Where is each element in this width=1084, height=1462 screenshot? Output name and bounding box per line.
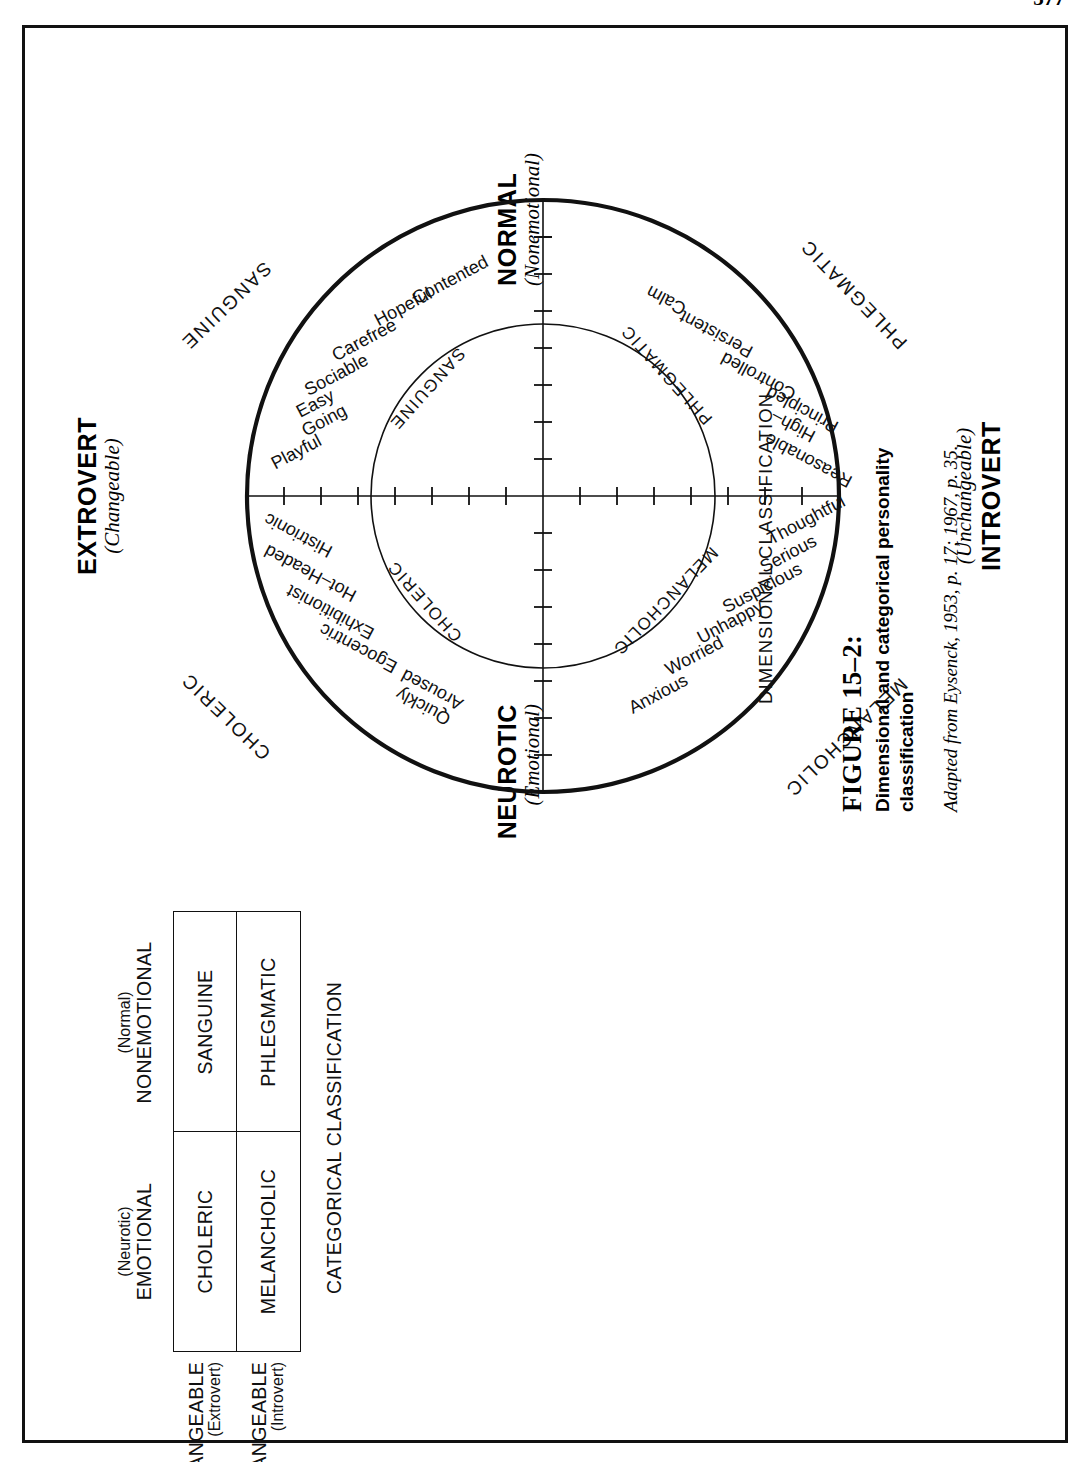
table-cell-phlegmatic: PHLEGMATIC [236,912,301,1133]
rotated-figure-canvas: (Neurotic) EMOTIONAL (Normal) NONEMOTION… [55,64,1035,1404]
categorical-table: CHOLERIC SANGUINE MELANCHOLIC PHLEGMATIC [173,912,301,1352]
table-cell-melancholic: MELANCHOLIC [236,1131,301,1352]
table-cell-choleric: CHOLERIC [173,1131,237,1352]
figure-source-note: Adapted from Eysenck, 1953, p. 17; 1967,… [939,392,964,812]
figure-title: Dimensional and categorical personality … [871,392,919,812]
figure-caption-block: FIGURE 15–2: Dimensional and categorical… [837,392,963,812]
categorical-column-header-nonemotional: (Normal) NONEMOTIONAL [117,912,155,1133]
page-number: 377 [1014,0,1084,11]
categorical-row-header-changeable: CHANGEABLE (Extrovert) [186,1362,224,1462]
book-page: 377 (Neurotic) EMOTIONAL (Normal) NONEMO… [0,0,1084,1462]
dimensional-classification-caption: DIMENSIONAL CLASSIFICATION [755,393,777,704]
figure-number: FIGURE 15–2: [837,392,868,812]
figure-plate-border: (Neurotic) EMOTIONAL (Normal) NONEMOTION… [22,25,1068,1443]
categorical-column-header-emotional: (Neurotic) EMOTIONAL [117,1131,155,1352]
categorical-classification-caption: CATEGORICAL CLASSIFICATION [323,982,346,1294]
table-cell-sanguine: SANGUINE [173,912,237,1133]
categorical-row-header-unchangeable: UNCHANGEABLE (Introvert) [249,1362,287,1462]
